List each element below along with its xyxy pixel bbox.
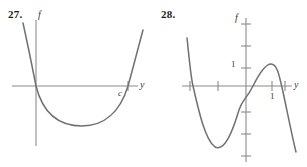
plot-27	[0, 0, 154, 167]
panel-28: 28. f 1 1 y	[153, 0, 307, 167]
figure-container: 27. f c y 28. f 1 1 y	[0, 0, 307, 167]
curve-cubic-28	[187, 38, 296, 152]
curve-parabola-27	[23, 23, 143, 126]
panel-27: 27. f c y	[0, 0, 154, 167]
plot-28	[153, 0, 307, 167]
